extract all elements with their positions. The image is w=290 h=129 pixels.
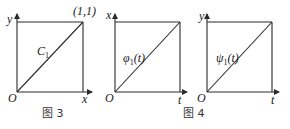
x-axis-label: x (81, 92, 88, 106)
curve-label: φ1(t) (123, 51, 145, 67)
y-axis-label: y (198, 9, 205, 23)
caption-fig4: 图 4 (183, 107, 205, 120)
y-axis-label: x (105, 8, 112, 22)
origin-label: O (8, 91, 17, 105)
caption-fig3: 图 3 (42, 107, 64, 120)
corner-label: (1,1) (73, 4, 96, 18)
t-axis-label: t (271, 93, 275, 107)
figure-3 (17, 14, 92, 92)
curve-label: ψ1(t) (216, 51, 239, 67)
t-axis-label: t (178, 93, 182, 107)
origin-label: O (105, 91, 114, 105)
curve-label: C1 (37, 44, 49, 60)
y-axis-label: y (6, 12, 13, 26)
diagonal-curve (17, 22, 83, 92)
figure-canvas: y (1,1) C1 O x 图 3 x φ1(t) O t y ψ1(t) O… (0, 0, 290, 129)
origin-label: O (197, 91, 206, 105)
